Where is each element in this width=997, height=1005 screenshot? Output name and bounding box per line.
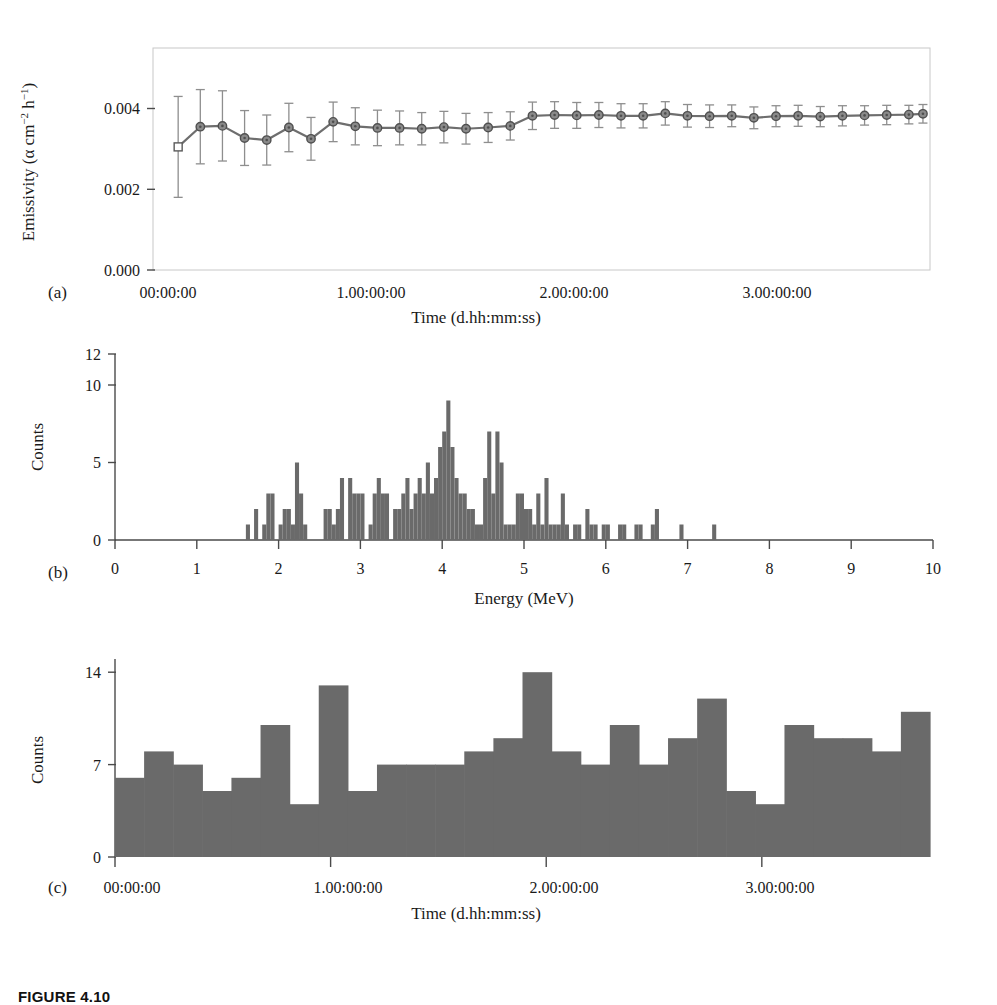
panel-c-bars <box>115 672 931 857</box>
panel-b-bar <box>270 494 274 541</box>
panel-b-bar <box>409 509 413 540</box>
panel-c-bar <box>290 804 320 857</box>
panel-b-bar <box>369 525 373 541</box>
panel-c-xtick-2: 2.00:00:00 <box>530 879 599 896</box>
panel-c-bar <box>144 751 174 857</box>
panel-b-xtick-10: 10 <box>925 560 941 577</box>
panel-c-bar <box>261 725 291 857</box>
panel-c-bar <box>872 751 902 857</box>
panel-a-frame <box>153 48 930 270</box>
panel-c-bar <box>173 765 203 857</box>
panel-c-bar <box>726 791 756 857</box>
panel-b-bar <box>634 525 638 541</box>
panel-b-bar <box>397 509 401 540</box>
panel-c-svg: 0 7 14 Counts 00:00:00 1.00:00:00 2.00:0… <box>0 645 997 955</box>
panel-b-bar <box>356 494 360 541</box>
panel-c-time-histogram: 0 7 14 Counts 00:00:00 1.00:00:00 2.00:0… <box>0 645 997 955</box>
panel-b-bar <box>639 525 643 541</box>
panel-b-ytick-0: 0 <box>93 532 101 549</box>
panel-b-xtick-5: 5 <box>520 560 528 577</box>
panel-c-bar <box>552 751 582 857</box>
panel-b-bar <box>495 432 499 541</box>
panel-a-y-ticks <box>147 109 155 271</box>
panel-b-bar <box>422 494 426 541</box>
panel-a-xtick-3: 3.00:00:00 <box>743 284 812 301</box>
panel-c-ytick-0: 0 <box>93 849 101 866</box>
panel-c-bar <box>231 778 261 857</box>
panel-b-x-ticks <box>115 540 933 549</box>
panel-b-bar <box>606 525 610 541</box>
panel-c-xlabel: Time (d.hh:mm:ss) <box>411 904 541 923</box>
panel-b-bar <box>291 525 295 541</box>
panel-b-bar <box>602 525 606 541</box>
panel-b-bar <box>454 478 458 540</box>
panel-b-bar <box>303 525 307 541</box>
panel-b-bar <box>324 509 328 540</box>
panel-b-xtick-4: 4 <box>438 560 446 577</box>
panel-a-ytick-1: 0.002 <box>104 181 140 198</box>
panel-a-svg: 0.000 0.002 0.004 Emissivity (α cm−2 h−1… <box>0 30 997 330</box>
panel-b-xtick-0: 0 <box>111 560 119 577</box>
panel-b-bar <box>450 447 454 540</box>
panel-b-xtick-1: 1 <box>193 560 201 577</box>
panel-b-bar <box>381 494 385 541</box>
panel-b-bar <box>651 525 655 541</box>
panel-c-bar <box>464 751 494 857</box>
panel-b-bar <box>528 509 532 540</box>
panel-c-ytick-2: 14 <box>85 664 101 681</box>
panel-c-bar <box>435 765 465 857</box>
panel-c-bar <box>697 699 727 857</box>
panel-b-ylabel-text: Counts <box>28 423 47 471</box>
panel-b-bar <box>483 478 487 540</box>
panel-b-bar <box>520 494 524 541</box>
panel-b-bar <box>254 509 258 540</box>
panel-b-bar <box>512 525 516 541</box>
panel-b-bar <box>360 494 364 541</box>
panel-b-xtick-9: 9 <box>847 560 855 577</box>
panel-b-bar <box>499 463 503 541</box>
panel-b-bar <box>577 525 581 541</box>
panel-c-bar <box>581 765 611 857</box>
panel-b-bar <box>618 525 622 541</box>
panel-b-bar <box>467 509 471 540</box>
panel-b-bar <box>487 432 491 541</box>
panel-c-bar <box>814 738 844 857</box>
panel-b-bar <box>446 401 450 541</box>
panel-a-ytick-0: 0.000 <box>104 262 140 279</box>
panel-b-bar <box>553 525 557 541</box>
panel-b-bar <box>508 525 512 541</box>
panel-b-bar <box>279 525 283 541</box>
panel-b-bar <box>532 525 536 541</box>
panel-c-bar <box>610 725 640 857</box>
panel-c-x-ticks <box>115 857 762 867</box>
panel-b-bar <box>340 478 344 540</box>
panel-b-bar <box>712 525 716 541</box>
panel-b-bar <box>549 525 553 541</box>
panel-b-bar <box>332 525 336 541</box>
panel-a-emissivity-timeseries: 0.000 0.002 0.004 Emissivity (α cm−2 h−1… <box>0 30 997 330</box>
panel-c-letter: (c) <box>48 878 67 897</box>
panel-a-ylabel-base: Emissivity (α cm <box>19 125 38 242</box>
panel-b-bar <box>348 478 352 540</box>
panel-b-xtick-7: 7 <box>684 560 692 577</box>
panel-b-bar <box>463 494 467 541</box>
panel-c-bar <box>319 685 349 857</box>
panel-a-letter: (a) <box>48 283 67 302</box>
panel-b-bar <box>295 463 299 541</box>
panel-b-bar <box>377 478 381 540</box>
panel-c-bar <box>202 791 232 857</box>
panel-b-bar <box>622 525 626 541</box>
panel-c-ylabel: Counts <box>28 736 47 784</box>
panel-c-bar <box>668 738 698 857</box>
panel-b-ytick-3: 12 <box>85 346 101 363</box>
panel-a-ylabel-tail: ) <box>19 83 38 89</box>
panel-b-bar <box>557 525 561 541</box>
panel-b-bar <box>565 525 569 541</box>
panel-a-ylabel: Emissivity (α cm−2 h−1) <box>18 83 38 241</box>
panel-b-xtick-2: 2 <box>275 560 283 577</box>
panel-b-bar <box>589 525 593 541</box>
panel-b-bar <box>491 494 495 541</box>
panel-b-bar <box>414 494 418 541</box>
panel-b-bar <box>471 509 475 540</box>
